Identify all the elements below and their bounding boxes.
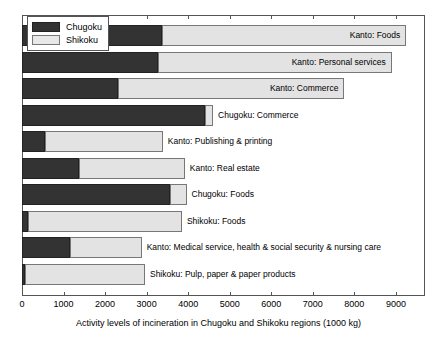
- bar-row[interactable]: Chugoku: Commerce: [0, 105, 437, 126]
- bar-segment-chugoku[interactable]: [22, 52, 158, 73]
- chart-legend: Chugoku Shikoku: [27, 16, 109, 51]
- bar-row[interactable]: Kanto: Commerce: [0, 78, 437, 99]
- x-tick-top: [147, 15, 148, 19]
- bar-label: Kanto: Commerce: [118, 78, 339, 99]
- legend-label-chugoku: Chugoku: [66, 22, 102, 32]
- x-tick-bottom: [22, 292, 23, 296]
- x-tick-top: [188, 15, 189, 19]
- x-tick-label: 0: [0, 299, 45, 309]
- x-tick-bottom: [64, 292, 65, 296]
- bar-row[interactable]: Kanto: Personal services: [0, 52, 437, 73]
- bar-label: Chugoku: Foods: [192, 184, 254, 205]
- bar-segment-chugoku[interactable]: [22, 78, 118, 99]
- x-tick-label: 1000: [41, 299, 87, 309]
- x-tick-bottom: [271, 292, 272, 296]
- x-tick-top: [354, 15, 355, 19]
- x-tick-bottom: [354, 292, 355, 296]
- bar-segment-chugoku[interactable]: [22, 184, 170, 205]
- x-tick-bottom: [313, 292, 314, 296]
- bar-segment-shikoku[interactable]: [25, 264, 145, 285]
- bar-row[interactable]: Shikoku: Pulp, paper & paper products: [0, 264, 437, 285]
- x-tick-top: [396, 15, 397, 19]
- x-tick-top: [22, 15, 23, 19]
- x-axis-title: Activity levels of incineration in Chugo…: [0, 318, 437, 328]
- bar-segment-chugoku[interactable]: [22, 158, 79, 179]
- bar-label: Kanto: Personal services: [158, 52, 386, 73]
- x-tick-label: 8000: [331, 299, 377, 309]
- x-tick-top: [313, 15, 314, 19]
- x-tick-label: 9000: [373, 299, 419, 309]
- bar-segment-shikoku[interactable]: [205, 105, 213, 126]
- bar-row[interactable]: Kanto: Publishing & printing: [0, 131, 437, 152]
- bar-label: Kanto: Medical service, health & social …: [147, 237, 381, 258]
- bar-segment-shikoku[interactable]: [79, 158, 185, 179]
- x-tick-bottom: [188, 292, 189, 296]
- x-tick-label: 3000: [124, 299, 170, 309]
- x-tick-top: [271, 15, 272, 19]
- bar-row[interactable]: Kanto: Real estate: [0, 158, 437, 179]
- legend-item-shikoku: Shikoku: [32, 34, 102, 46]
- bar-segment-shikoku[interactable]: [170, 184, 187, 205]
- x-tick-bottom: [147, 292, 148, 296]
- x-tick-label: 5000: [207, 299, 253, 309]
- bar-row[interactable]: Kanto: Medical service, health & social …: [0, 237, 437, 258]
- bar-segment-chugoku[interactable]: [22, 105, 205, 126]
- legend-label-shikoku: Shikoku: [66, 35, 98, 45]
- chart-figure: Kanto: FoodsKanto: Personal servicesKant…: [0, 0, 437, 343]
- x-tick-bottom: [105, 292, 106, 296]
- bar-label: Shikoku: Foods: [187, 211, 246, 232]
- legend-swatch-chugoku: [32, 22, 60, 32]
- legend-item-chugoku: Chugoku: [32, 21, 102, 33]
- bar-row[interactable]: Shikoku: Foods: [0, 211, 437, 232]
- bar-label: Kanto: Real estate: [190, 158, 260, 179]
- bar-label: Kanto: Foods: [162, 25, 400, 46]
- bar-segment-shikoku[interactable]: [28, 211, 182, 232]
- bar-label: Shikoku: Pulp, paper & paper products: [150, 264, 296, 285]
- x-tick-bottom: [230, 292, 231, 296]
- bar-segment-shikoku[interactable]: [70, 237, 142, 258]
- bar-segment-chugoku[interactable]: [22, 237, 70, 258]
- x-tick-label: 4000: [165, 299, 211, 309]
- bar-label: Chugoku: Commerce: [218, 105, 298, 126]
- x-tick-bottom: [396, 292, 397, 296]
- bar-segment-shikoku[interactable]: [45, 131, 163, 152]
- x-tick-label: 6000: [248, 299, 294, 309]
- bar-row[interactable]: Chugoku: Foods: [0, 184, 437, 205]
- x-tick-label: 7000: [290, 299, 336, 309]
- legend-swatch-shikoku: [32, 35, 60, 45]
- x-tick-top: [230, 15, 231, 19]
- bar-segment-chugoku[interactable]: [22, 131, 45, 152]
- bar-label: Kanto: Publishing & printing: [168, 131, 272, 152]
- x-tick-label: 2000: [82, 299, 128, 309]
